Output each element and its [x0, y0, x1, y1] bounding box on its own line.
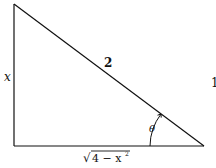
- exponent-text: 2: [125, 150, 129, 157]
- hypotenuse-label: 2: [104, 56, 112, 70]
- edge-fragment-label: 1: [211, 76, 216, 90]
- opposite-side-label: x: [4, 70, 11, 84]
- adjacent-side-label: √ 4 − x 2: [83, 150, 130, 165]
- triangle-diagram: x 2 θ √ 4 − x 2 1: [0, 0, 216, 168]
- hypotenuse-line: [14, 4, 204, 146]
- angle-label: θ: [149, 123, 155, 134]
- radical-sign: √: [83, 151, 91, 165]
- radicand-text: 4 − x: [92, 152, 122, 165]
